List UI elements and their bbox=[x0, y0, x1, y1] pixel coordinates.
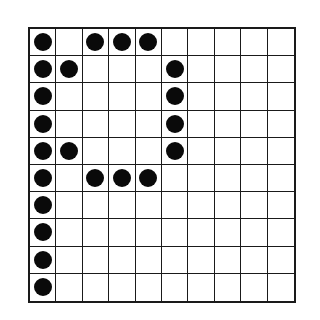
filled-dot-icon bbox=[34, 196, 52, 214]
grid-cell-r1-c0 bbox=[30, 56, 56, 83]
grid-cell-r7-c3 bbox=[109, 219, 135, 246]
grid-cell-r3-c7 bbox=[215, 111, 241, 138]
grid-cell-r3-c8 bbox=[241, 111, 267, 138]
filled-dot-icon bbox=[60, 60, 78, 78]
grid-cell-r0-c3 bbox=[109, 29, 135, 56]
grid-cell-r4-c9 bbox=[268, 138, 294, 165]
grid-cell-r4-c1 bbox=[56, 138, 82, 165]
grid-cell-r5-c6 bbox=[188, 165, 214, 192]
grid-cell-r0-c1 bbox=[56, 29, 82, 56]
grid-cell-r9-c7 bbox=[215, 274, 241, 301]
filled-dot-icon bbox=[34, 223, 52, 241]
grid-cell-r8-c8 bbox=[241, 247, 267, 274]
grid-cell-r8-c0 bbox=[30, 247, 56, 274]
grid-cell-r7-c4 bbox=[136, 219, 162, 246]
grid-cell-r8-c9 bbox=[268, 247, 294, 274]
grid-cell-r8-c4 bbox=[136, 247, 162, 274]
grid-cell-r5-c7 bbox=[215, 165, 241, 192]
grid-cell-r7-c5 bbox=[162, 219, 188, 246]
grid-cell-r7-c0 bbox=[30, 219, 56, 246]
filled-dot-icon bbox=[34, 60, 52, 78]
grid-cell-r6-c6 bbox=[188, 192, 214, 219]
grid-cell-r8-c6 bbox=[188, 247, 214, 274]
grid-cell-r9-c8 bbox=[241, 274, 267, 301]
filled-dot-icon bbox=[166, 87, 184, 105]
grid-cell-r9-c1 bbox=[56, 274, 82, 301]
grid-cell-r5-c5 bbox=[162, 165, 188, 192]
grid-cell-r7-c9 bbox=[268, 219, 294, 246]
grid-cell-r5-c0 bbox=[30, 165, 56, 192]
grid-cell-r1-c7 bbox=[215, 56, 241, 83]
grid-cell-r6-c3 bbox=[109, 192, 135, 219]
grid-cell-r2-c2 bbox=[83, 83, 109, 110]
grid-cell-r0-c4 bbox=[136, 29, 162, 56]
grid-cell-r3-c1 bbox=[56, 111, 82, 138]
filled-dot-icon bbox=[86, 33, 104, 51]
grid-cell-r8-c7 bbox=[215, 247, 241, 274]
grid-cell-r4-c7 bbox=[215, 138, 241, 165]
grid-cell-r0-c9 bbox=[268, 29, 294, 56]
grid-cell-r2-c5 bbox=[162, 83, 188, 110]
grid-cell-r7-c1 bbox=[56, 219, 82, 246]
grid-cell-r4-c4 bbox=[136, 138, 162, 165]
grid-cell-r9-c6 bbox=[188, 274, 214, 301]
grid-cell-r2-c9 bbox=[268, 83, 294, 110]
grid-cell-r3-c4 bbox=[136, 111, 162, 138]
grid-cell-r0-c8 bbox=[241, 29, 267, 56]
filled-dot-icon bbox=[166, 60, 184, 78]
grid-cell-r8-c2 bbox=[83, 247, 109, 274]
filled-dot-icon bbox=[34, 251, 52, 269]
grid-cell-r2-c4 bbox=[136, 83, 162, 110]
filled-dot-icon bbox=[113, 169, 131, 187]
grid-cell-r3-c0 bbox=[30, 111, 56, 138]
grid-cell-r6-c2 bbox=[83, 192, 109, 219]
grid-cell-r5-c8 bbox=[241, 165, 267, 192]
filled-dot-icon bbox=[86, 169, 104, 187]
grid-cell-r9-c5 bbox=[162, 274, 188, 301]
grid-cell-r4-c3 bbox=[109, 138, 135, 165]
filled-dot-icon bbox=[60, 142, 78, 160]
grid-cell-r0-c2 bbox=[83, 29, 109, 56]
grid-cell-r9-c4 bbox=[136, 274, 162, 301]
grid-cell-r0-c5 bbox=[162, 29, 188, 56]
grid-cell-r6-c8 bbox=[241, 192, 267, 219]
grid-cell-r1-c3 bbox=[109, 56, 135, 83]
grid-cell-r0-c0 bbox=[30, 29, 56, 56]
grid-cell-r3-c2 bbox=[83, 111, 109, 138]
grid-cell-r3-c3 bbox=[109, 111, 135, 138]
grid-cell-r2-c6 bbox=[188, 83, 214, 110]
grid-cell-r6-c1 bbox=[56, 192, 82, 219]
filled-dot-icon bbox=[34, 278, 52, 296]
grid-cell-r1-c6 bbox=[188, 56, 214, 83]
grid-cell-r1-c2 bbox=[83, 56, 109, 83]
grid-cell-r7-c7 bbox=[215, 219, 241, 246]
grid-cell-r1-c5 bbox=[162, 56, 188, 83]
grid-cell-r4-c5 bbox=[162, 138, 188, 165]
grid-cell-r6-c4 bbox=[136, 192, 162, 219]
filled-dot-icon bbox=[34, 33, 52, 51]
filled-dot-icon bbox=[166, 115, 184, 133]
grid-cell-r5-c9 bbox=[268, 165, 294, 192]
grid-cell-r2-c7 bbox=[215, 83, 241, 110]
grid-cell-r8-c3 bbox=[109, 247, 135, 274]
filled-dot-icon bbox=[139, 169, 157, 187]
grid-cell-r7-c2 bbox=[83, 219, 109, 246]
grid-cell-r1-c9 bbox=[268, 56, 294, 83]
filled-dot-icon bbox=[34, 169, 52, 187]
grid-cell-r8-c5 bbox=[162, 247, 188, 274]
grid-cell-r2-c0 bbox=[30, 83, 56, 110]
grid-cell-r7-c6 bbox=[188, 219, 214, 246]
grid-cell-r2-c8 bbox=[241, 83, 267, 110]
grid-cell-r2-c1 bbox=[56, 83, 82, 110]
grid-cell-r9-c2 bbox=[83, 274, 109, 301]
grid-cell-r6-c7 bbox=[215, 192, 241, 219]
grid-cell-r4-c2 bbox=[83, 138, 109, 165]
grid-cell-r9-c0 bbox=[30, 274, 56, 301]
dot-grid bbox=[28, 27, 296, 303]
filled-dot-icon bbox=[113, 33, 131, 51]
grid-cell-r9-c3 bbox=[109, 274, 135, 301]
grid-cell-r9-c9 bbox=[268, 274, 294, 301]
grid-cell-r3-c5 bbox=[162, 111, 188, 138]
filled-dot-icon bbox=[166, 142, 184, 160]
filled-dot-icon bbox=[34, 142, 52, 160]
